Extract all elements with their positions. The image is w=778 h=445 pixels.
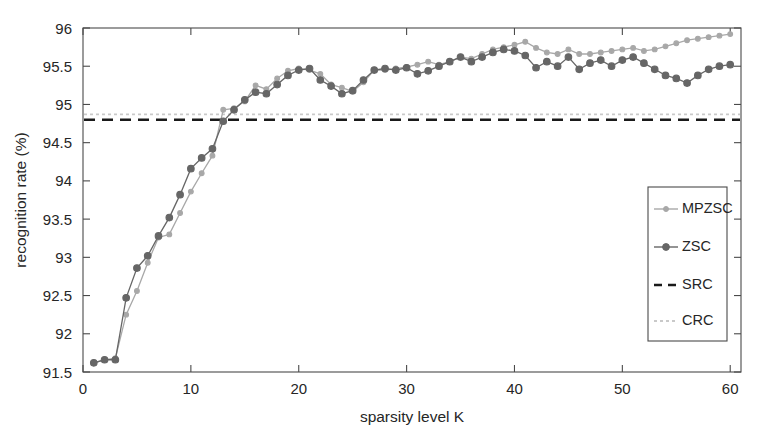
recognition-rate-chart: 91.59292.59393.59494.59595.5960102030405… (0, 0, 778, 445)
series-marker-zsc (90, 360, 97, 367)
series-marker-zsc (565, 54, 572, 61)
series-marker-zsc (349, 87, 356, 94)
series-marker-mpzsc (577, 52, 582, 57)
series-marker-mpzsc (275, 76, 280, 81)
series-marker-mpzsc (145, 260, 150, 265)
series-marker-zsc (500, 46, 507, 53)
series-marker-zsc (231, 107, 238, 114)
y-axis-tick-label: 92.5 (43, 287, 72, 304)
y-axis-tick-label: 93 (55, 249, 72, 266)
x-axis-title: sparsity level K (360, 408, 465, 425)
series-marker-mpzsc (199, 171, 204, 176)
series-marker-mpzsc (167, 232, 172, 237)
y-axis-title: recognition rate (%) (12, 132, 29, 267)
series-marker-mpzsc (210, 153, 215, 158)
series-marker-mpzsc (685, 38, 690, 43)
series-marker-zsc (306, 65, 313, 72)
series-marker-zsc (198, 155, 205, 162)
series-marker-zsc (317, 77, 324, 84)
series-marker-zsc (641, 60, 648, 67)
series-marker-mpzsc (318, 71, 323, 76)
series-marker-zsc (608, 63, 615, 70)
series-marker-zsc (533, 64, 540, 71)
x-axis-tick-label: 60 (722, 380, 739, 397)
y-axis-tick-label: 94 (55, 172, 72, 189)
legend-label-zsc: ZSC (682, 238, 711, 254)
series-marker-zsc (457, 54, 464, 61)
series-marker-mpzsc (566, 47, 571, 52)
series-marker-zsc (263, 90, 270, 97)
x-axis-tick-label: 0 (79, 380, 87, 397)
series-marker-zsc (393, 67, 400, 74)
series-marker-zsc (220, 118, 227, 125)
legend-label-crc: CRC (682, 312, 713, 328)
series-marker-zsc (403, 64, 410, 71)
series-marker-mpzsc (221, 107, 226, 112)
series-marker-zsc (285, 72, 292, 79)
series-marker-zsc (554, 63, 561, 70)
series-marker-mpzsc (555, 52, 560, 57)
plot-frame (83, 28, 741, 372)
series-marker-zsc (328, 83, 335, 90)
series-marker-zsc (684, 80, 691, 87)
series-marker-mpzsc (652, 47, 657, 52)
series-marker-mpzsc (512, 42, 517, 47)
series-marker-mpzsc (620, 47, 625, 52)
series-marker-zsc (673, 75, 680, 82)
legend-label-src: SRC (682, 276, 713, 292)
series-marker-mpzsc (695, 36, 700, 41)
series-marker-zsc (112, 356, 119, 363)
y-axis-tick-label: 92 (55, 325, 72, 342)
series-marker-zsc (382, 65, 389, 72)
series-marker-zsc (360, 77, 367, 84)
y-axis-tick-label: 96 (55, 20, 72, 37)
series-marker-zsc (446, 58, 453, 65)
series-marker-zsc (716, 63, 723, 70)
series-marker-mpzsc (663, 44, 668, 49)
series-marker-mpzsc (415, 62, 420, 67)
series-marker-mpzsc (728, 32, 733, 37)
series-marker-zsc (101, 356, 108, 363)
series-marker-mpzsc (631, 45, 636, 50)
series-marker-zsc (371, 67, 378, 74)
series-marker-mpzsc (124, 312, 129, 317)
series-marker-zsc (544, 58, 551, 65)
series-marker-zsc (166, 214, 173, 221)
series-marker-mpzsc (178, 211, 183, 216)
series-marker-mpzsc (674, 41, 679, 46)
series-marker-zsc (662, 72, 669, 79)
series-marker-zsc (630, 54, 637, 61)
series-marker-zsc (619, 57, 626, 64)
legend-swatch-marker (664, 207, 669, 212)
series-marker-zsc (295, 67, 302, 74)
series-marker-mpzsc (339, 85, 344, 90)
series-marker-zsc (274, 81, 281, 88)
x-axis-tick-label: 20 (290, 380, 307, 397)
series-marker-zsc (436, 63, 443, 70)
legend-swatch-marker (663, 244, 670, 251)
series-marker-zsc (155, 233, 162, 240)
legend-label-mpzsc: MPZSC (682, 200, 733, 216)
series-marker-zsc (414, 71, 421, 78)
series-marker-zsc (490, 49, 497, 56)
y-axis-tick-label: 95 (55, 96, 72, 113)
series-marker-zsc (597, 57, 604, 64)
series-marker-mpzsc (544, 50, 549, 55)
series-marker-mpzsc (706, 35, 711, 40)
series-marker-zsc (587, 60, 594, 67)
series-marker-zsc (209, 145, 216, 152)
series-marker-zsc (479, 54, 486, 61)
series-marker-zsc (242, 97, 249, 104)
series-marker-zsc (188, 165, 195, 172)
x-axis-tick-label: 50 (614, 380, 631, 397)
series-marker-mpzsc (609, 49, 614, 54)
y-axis-tick-label: 95.5 (43, 58, 72, 75)
x-axis-tick-label: 10 (183, 380, 200, 397)
series-marker-mpzsc (188, 189, 193, 194)
x-axis-tick-label: 30 (398, 380, 415, 397)
y-axis-tick-label: 94.5 (43, 134, 72, 151)
figure-container: 91.59292.59393.59494.59595.5960102030405… (0, 0, 778, 445)
series-marker-mpzsc (523, 39, 528, 44)
series-marker-zsc (651, 66, 658, 73)
series-marker-zsc (177, 191, 184, 198)
